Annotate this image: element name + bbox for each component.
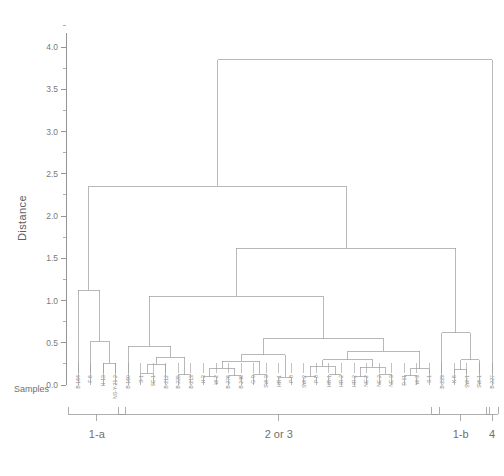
- y-tick-label: 1.5: [46, 253, 58, 263]
- dendrogram-canvas: 0.00.51.01.52.02.53.03.54.0DistanceSampl…: [0, 0, 504, 476]
- cluster-label: 2 or 3: [265, 428, 293, 440]
- y-tick-label: 3.0: [46, 127, 58, 137]
- y-tick-label: 0.5: [46, 338, 58, 348]
- y-tick-label: 1.0: [46, 296, 58, 306]
- y-tick-label: 2.0: [46, 211, 58, 221]
- cluster-label: 4: [489, 428, 495, 440]
- y-tick-label: 4.0: [46, 42, 58, 52]
- x-axis-title: Samples: [14, 384, 50, 394]
- y-tick-label: 2.5: [46, 169, 58, 179]
- dendrogram-figure: 0.00.51.01.52.02.53.03.54.0DistanceSampl…: [0, 0, 504, 476]
- y-axis-title: Distance: [16, 195, 28, 241]
- cluster-label: 1-a: [89, 428, 106, 440]
- cluster-label: 1-b: [453, 428, 469, 440]
- y-tick-label: 3.5: [46, 84, 58, 94]
